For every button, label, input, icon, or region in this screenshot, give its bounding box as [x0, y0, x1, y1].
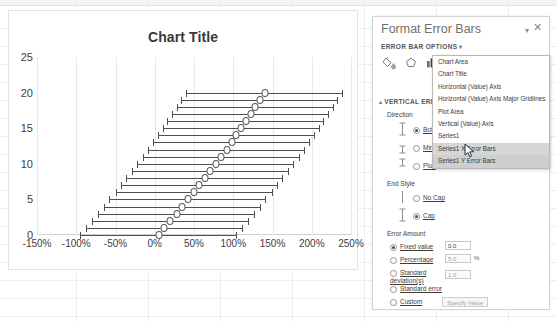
percent-unit-label: % — [474, 255, 479, 261]
data-point-marker[interactable] — [191, 188, 198, 196]
error-amount-option-standard-error[interactable]: Standard error — [390, 285, 442, 293]
gridline-vertical — [351, 57, 352, 235]
data-point-marker[interactable] — [167, 217, 174, 225]
data-point-marker[interactable] — [256, 96, 263, 104]
end-style-cap-glyph-icon — [398, 207, 407, 223]
data-point-marker[interactable] — [179, 203, 186, 211]
data-point-marker[interactable] — [261, 89, 268, 97]
effects-icon[interactable] — [402, 54, 420, 72]
specify-value-button[interactable]: Specify Value — [442, 297, 488, 307]
chevron-down-icon: ▾ — [459, 44, 462, 50]
data-point-marker[interactable] — [161, 224, 168, 232]
gridline-vertical — [116, 57, 117, 235]
dropdown-item[interactable]: Plot Area — [433, 106, 549, 118]
y-axis-tick-label: 20 — [7, 87, 33, 99]
custom-label: Custom — [400, 298, 422, 305]
error-amount-option-custom[interactable]: Custom — [390, 298, 422, 306]
data-point-marker[interactable] — [238, 124, 245, 132]
dropdown-item[interactable]: Horizontal (Value) Axis — [433, 81, 549, 93]
end-style-cap-label: Cap — [423, 212, 435, 219]
dropdown-item[interactable]: Series1 X Error Bars — [433, 143, 549, 155]
data-point-marker[interactable] — [252, 103, 259, 111]
dropdown-item[interactable]: Series1 Y Error Bars — [433, 155, 549, 167]
radio-percentage[interactable] — [390, 257, 397, 264]
gridline-vertical — [233, 57, 234, 235]
data-point-marker[interactable] — [228, 138, 235, 146]
data-point-marker[interactable] — [247, 110, 254, 118]
excel-worksheet-with-chart: Chart Title -150%-100%-50%0%50%100%150%2… — [0, 0, 557, 321]
direction-both-glyph-icon — [398, 121, 407, 137]
x-axis-tick-label: 250% — [328, 238, 374, 249]
error-bar-options-label: ERROR BAR OPTIONS — [381, 43, 457, 50]
error-amount-option-standard-deviations[interactable]: Standard deviation(s) — [390, 269, 442, 284]
data-point-marker[interactable] — [223, 146, 230, 154]
radio-standard-deviations[interactable] — [390, 270, 397, 277]
end-style-nocap-glyph-icon — [398, 189, 407, 205]
plot-area[interactable]: -150%-100%-50%0%50%100%150%200%250%05101… — [37, 57, 351, 235]
fixed-value-input[interactable]: 0.0 — [445, 241, 471, 250]
direction-plus-glyph-icon — [398, 157, 407, 173]
collapse-triangle-icon: ▴ — [379, 99, 382, 105]
radio-fixed-value[interactable] — [390, 244, 397, 251]
end-style-no-cap-label: No Cap — [423, 194, 445, 201]
gridline-vertical — [194, 57, 195, 235]
error-bar-options-header[interactable]: ERROR BAR OPTIONS▾ — [381, 43, 463, 50]
data-point-marker[interactable] — [233, 131, 240, 139]
data-point-marker[interactable] — [173, 210, 180, 218]
radio-minus[interactable] — [413, 145, 420, 152]
error-amount-option-percentage[interactable]: Percentage — [390, 256, 433, 264]
data-point-marker[interactable] — [155, 231, 162, 239]
chart-object[interactable]: Chart Title -150%-100%-50%0%50%100%150%2… — [8, 10, 358, 270]
data-point-marker[interactable] — [184, 195, 191, 203]
gridline-vertical — [37, 57, 38, 235]
dropdown-item[interactable]: Horizontal (Value) Axis Major Gridlines — [433, 93, 549, 105]
data-point-marker[interactable] — [242, 117, 249, 125]
pane-title: Format Error Bars — [381, 22, 481, 36]
data-point-marker[interactable] — [207, 167, 214, 175]
direction-minus-glyph-icon — [398, 139, 407, 155]
gridline-vertical — [273, 57, 274, 235]
dropdown-item[interactable]: Chart Title — [433, 68, 549, 80]
data-point-marker[interactable] — [212, 160, 219, 168]
dropdown-item[interactable]: Series1 — [433, 130, 549, 142]
radio-standard-error[interactable] — [390, 286, 397, 293]
standard-deviations-input[interactable]: 1.0 — [445, 270, 471, 279]
gridline-vertical — [312, 57, 313, 235]
mouse-cursor-icon — [464, 143, 476, 159]
end-style-option-cap[interactable]: Cap — [413, 212, 435, 220]
y-axis-tick-label: 15 — [7, 122, 33, 134]
fill-line-icon[interactable] — [381, 54, 399, 72]
pane-dropdown-caret-icon[interactable]: ▾ — [525, 26, 529, 35]
fixed-value-label: Fixed value — [400, 243, 433, 250]
percentage-label: Percentage — [400, 256, 433, 263]
radio-custom[interactable] — [390, 299, 397, 306]
y-axis-tick-label: 10 — [7, 158, 33, 170]
dropdown-item[interactable]: Vertical (Value) Axis — [433, 118, 549, 130]
y-axis-tick-label: 0 — [7, 229, 33, 241]
error-amount-label: Error Amount — [387, 230, 425, 237]
chart-title[interactable]: Chart Title — [9, 29, 357, 45]
data-point-marker[interactable] — [218, 153, 225, 161]
y-axis-tick-label: 5 — [7, 193, 33, 205]
data-point-marker[interactable] — [196, 181, 203, 189]
radio-plus[interactable] — [413, 163, 420, 170]
error-amount-option-fixed-value[interactable]: Fixed value — [390, 243, 433, 251]
dropdown-item[interactable]: Chart Area — [433, 56, 549, 68]
y-axis-tick-label: 25 — [7, 51, 33, 63]
gridline-vertical — [155, 57, 156, 235]
direction-label: Direction — [387, 111, 413, 118]
radio-no-cap[interactable] — [413, 195, 420, 202]
end-style-label: End Style — [387, 180, 415, 187]
chart-element-dropdown[interactable]: Chart AreaChart TitleHorizontal (Value) … — [432, 55, 550, 169]
standard-error-label: Standard error — [400, 285, 442, 292]
worksheet-top-edge — [0, 0, 557, 6]
radio-both[interactable] — [413, 127, 420, 134]
data-point-marker[interactable] — [201, 174, 208, 182]
gridline-vertical — [76, 57, 77, 235]
radio-cap[interactable] — [413, 213, 420, 220]
pane-header: Format Error Bars ▾ ✕ — [373, 17, 549, 43]
percentage-input[interactable]: 5.0 — [445, 254, 471, 263]
end-style-option-no-cap[interactable]: No Cap — [413, 194, 445, 202]
close-icon[interactable]: ✕ — [533, 22, 542, 33]
